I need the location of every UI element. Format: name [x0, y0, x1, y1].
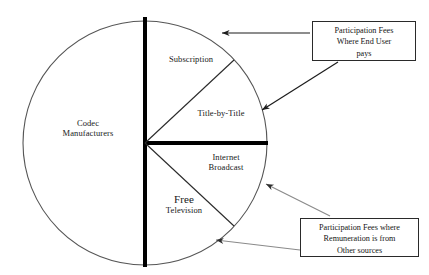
callout-line3: pays: [317, 48, 411, 59]
sector-label-line1: Codec: [77, 118, 99, 128]
sector-label-subscription: Subscription: [148, 55, 234, 65]
sector-label-line1: Internet: [212, 152, 239, 162]
sector-label-free-television: Free Television: [148, 194, 220, 215]
callout-line1: Participation Fees where: [305, 222, 414, 233]
sector-label-line1: Free: [148, 194, 220, 206]
sector-label-internet-broadcast: Internet Broadcast: [188, 153, 264, 172]
callout-box-other-sources: Participation Fees where Remuneration is…: [300, 218, 419, 257]
arrow-other-sources-to-free-television: [216, 240, 300, 250]
sector-label-line2: Manufacturers: [63, 128, 114, 138]
callout-line2: Where End User: [317, 36, 411, 47]
sector-label-line2: Broadcast: [209, 162, 244, 172]
sector-label-line1: Title-by-Title: [197, 108, 244, 118]
sector-label-line1: Subscription: [169, 54, 213, 64]
callout-box-end-user: Participation Fees Where End User pays: [312, 21, 416, 61]
callout-line2: Remuneration is from: [305, 233, 414, 244]
sector-label-codec-manufacturers: Codec Manufacturers: [36, 119, 140, 138]
arrow-end-user-to-title-by-title: [262, 62, 338, 110]
diagram-canvas: Codec Manufacturers Subscription Title-b…: [0, 0, 429, 275]
callout-line3: Other sources: [305, 245, 414, 256]
sector-label-line2: Television: [148, 206, 220, 215]
arrow-other-sources-to-internet-broadcast: [266, 184, 330, 216]
callout-line1: Participation Fees: [317, 25, 411, 36]
sector-label-title-by-title: Title-by-Title: [178, 109, 264, 119]
